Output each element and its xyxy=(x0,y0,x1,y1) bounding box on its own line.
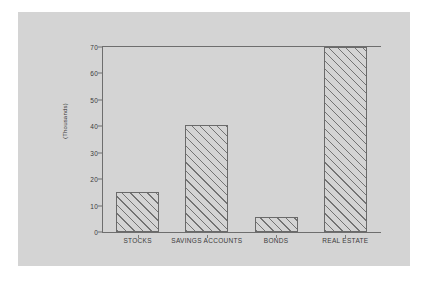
bar-savings-accounts xyxy=(185,125,228,232)
y-tick-label: 10 xyxy=(90,202,98,209)
y-tick-label: 70 xyxy=(90,44,98,51)
chart-panel: (Thousands) 010203040506070 STOCKSSAVING… xyxy=(18,12,410,266)
y-tick-mark xyxy=(98,47,102,48)
x-axis-line xyxy=(102,232,381,233)
x-axis-label-bonds: BONDS xyxy=(264,237,289,244)
x-axis-label-real-estate: REAL ESTATE xyxy=(322,237,368,244)
bar-bonds xyxy=(255,217,298,232)
y-tick-mark xyxy=(98,99,102,100)
y-axis-tick-labels: 010203040506070 xyxy=(78,46,98,232)
y-tick-label: 40 xyxy=(90,123,98,130)
bar-stocks xyxy=(116,192,159,232)
y-tick-mark xyxy=(98,126,102,127)
chart-screenshot: (Thousands) 010203040506070 STOCKSSAVING… xyxy=(0,0,428,283)
y-tick-label: 30 xyxy=(90,149,98,156)
y-tick-mark xyxy=(98,205,102,206)
y-tick-mark xyxy=(98,152,102,153)
x-axis-label-stocks: STOCKS xyxy=(123,237,151,244)
bar-real-estate xyxy=(324,47,367,232)
y-tick-mark xyxy=(98,73,102,74)
y-tick-label: 60 xyxy=(90,70,98,77)
y-tick-label: 20 xyxy=(90,176,98,183)
plot-area xyxy=(103,47,380,232)
y-axis-title: (Thousands) xyxy=(62,103,68,139)
x-axis-label-savings-accounts: SAVINGS ACCOUNTS xyxy=(171,237,242,244)
x-axis-category-labels: STOCKSSAVINGS ACCOUNTSBONDSREAL ESTATE xyxy=(103,235,380,251)
y-tick-mark xyxy=(98,179,102,180)
y-tick-label: 50 xyxy=(90,96,98,103)
y-tick-mark xyxy=(98,232,102,233)
